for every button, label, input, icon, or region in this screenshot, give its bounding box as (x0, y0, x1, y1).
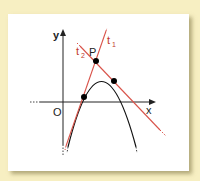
point-p (93, 58, 99, 64)
parabola-curve (67, 82, 137, 154)
svg-text:t: t (76, 45, 79, 57)
svg-text:t: t (107, 34, 110, 46)
origin-label: O (53, 106, 62, 118)
tangent-line-t1 (65, 28, 107, 150)
tangent-point-1 (81, 94, 87, 100)
y-axis-arrow-icon (60, 29, 66, 36)
diagram-canvas: y x O P t 1 t 2 (0, 0, 200, 181)
x-axis (30, 99, 156, 105)
tangent-t1-label: t 1 (107, 34, 116, 48)
point-p-label: P (89, 46, 96, 58)
svg-text:2: 2 (81, 52, 85, 59)
y-axis-label: y (53, 29, 60, 41)
tangent-point-2 (111, 78, 117, 84)
y-axis (60, 29, 66, 155)
svg-text:1: 1 (112, 41, 116, 48)
x-axis-label: x (146, 104, 152, 116)
